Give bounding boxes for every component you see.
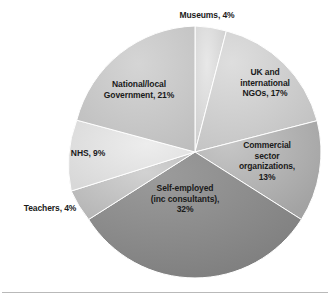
pie-label-self-employed: Self-employed (inc consultants), 32% <box>128 183 242 215</box>
pie-label-museums: Museums, 4% <box>152 10 262 21</box>
pie-label-national-local-government: National/local Government, 21% <box>83 79 195 100</box>
figure-bottom-rule <box>2 292 328 293</box>
pie-label-commercial-sector-organizations: Commercial sector organizations, 13% <box>216 140 318 182</box>
pie-label-teachers: Teachers, 4% <box>2 203 98 214</box>
pie-label-uk-international-ngos: UK and international NGOs, 17% <box>219 67 311 99</box>
pie-label-nhs: NHS, 9% <box>47 148 129 159</box>
pie-chart-figure: Museums, 4% UK and international NGOs, 1… <box>0 0 330 298</box>
